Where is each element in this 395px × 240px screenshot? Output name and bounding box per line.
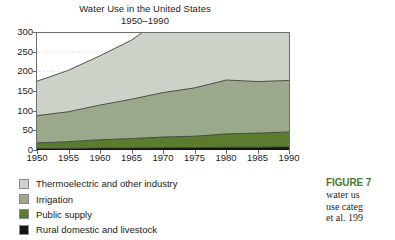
legend-label-irrigation: Irrigation	[36, 194, 73, 205]
legend-label-public-supply: Public supply	[36, 209, 92, 220]
legend-label-thermoelectric: Thermoelectric and other industry	[36, 178, 178, 189]
x-tick-mark-1965	[132, 150, 133, 154]
figure-caption: FIGURE 7 water us use categ et al. 199	[326, 177, 395, 239]
legend-item-irrigation: Irrigation	[19, 191, 279, 206]
figure-caption-line-1: water us	[326, 189, 395, 201]
legend-item-rural: Rural domestic and livestock	[19, 222, 279, 237]
x-tick-mark-1950	[37, 150, 38, 154]
figure-caption-heading: FIGURE 7	[326, 177, 395, 189]
legend-label-rural: Rural domestic and livestock	[36, 224, 157, 235]
x-tick-mark-1955	[69, 150, 70, 154]
legend-swatch-irrigation	[19, 194, 29, 204]
x-tick-mark-1960	[100, 150, 101, 154]
figure-caption-line-3: et al. 199	[326, 212, 395, 224]
x-tick-mark-1980	[226, 150, 227, 154]
legend-item-thermoelectric: Thermoelectric and other industry	[19, 176, 279, 191]
x-tick-mark-1985	[258, 150, 259, 154]
legend-item-public-supply: Public supply	[19, 207, 279, 222]
legend-swatch-rural	[19, 225, 29, 235]
legend-swatch-thermoelectric	[19, 179, 29, 189]
x-tick-mark-1975	[195, 150, 196, 154]
chart-legend: Thermoelectric and other industry Irriga…	[19, 176, 279, 238]
x-tick-mark-1990	[289, 150, 290, 154]
x-tick-mark-1970	[163, 150, 164, 154]
legend-swatch-public-supply	[19, 209, 29, 219]
figure-caption-line-2: use categ	[326, 201, 395, 213]
